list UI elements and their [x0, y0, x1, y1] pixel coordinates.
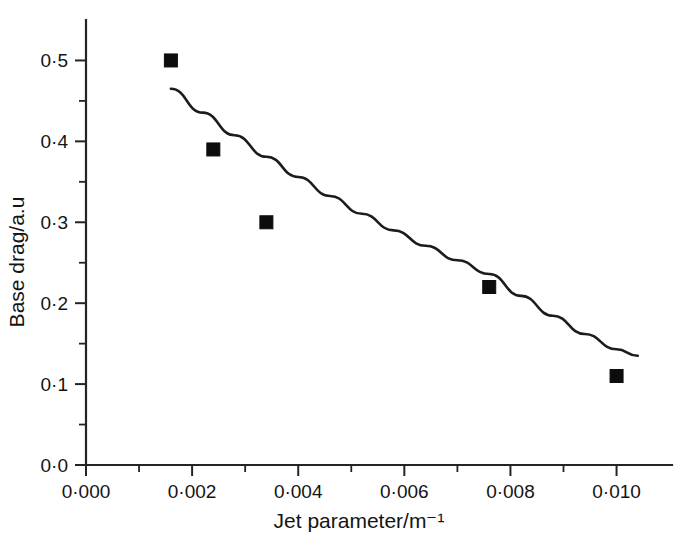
y-axis-title: Base drag/a.u [5, 197, 28, 328]
x-tick-label: 0·004 [274, 481, 323, 502]
y-tick-label: 0·2 [41, 293, 68, 314]
y-tick-label: 0·5 [41, 50, 68, 71]
x-axis-title: Jet parameter/m⁻¹ [274, 509, 445, 532]
x-tick-label: 0·000 [62, 481, 111, 502]
data-point-marker [483, 281, 496, 294]
y-tick-label: 0·3 [41, 212, 68, 233]
scatter-plot: 0·0000·0020·0040·0060·0080·010 0·00·10·2… [0, 0, 680, 536]
plot-background [0, 0, 680, 536]
x-tick-label: 0·006 [380, 481, 429, 502]
x-tick-label: 0·008 [486, 481, 535, 502]
data-point-marker [207, 143, 220, 156]
y-tick-label: 0·0 [41, 455, 68, 476]
data-point-marker [164, 54, 177, 67]
x-tick-label: 0·002 [168, 481, 217, 502]
data-point-marker [260, 216, 273, 229]
x-tick-label: 0·010 [592, 481, 641, 502]
y-tick-label: 0·4 [41, 131, 69, 152]
y-tick-label: 0·1 [41, 374, 68, 395]
chart-figure: 0·0000·0020·0040·0060·0080·010 0·00·10·2… [0, 0, 680, 536]
data-point-marker [610, 370, 623, 383]
